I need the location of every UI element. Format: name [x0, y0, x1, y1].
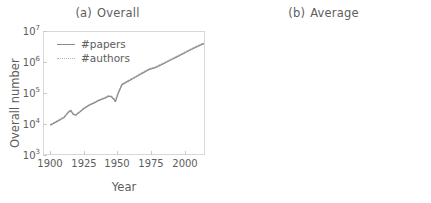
xtick-a-1975: 1975 [138, 158, 163, 169]
xtick-a-1900: 1900 [37, 158, 62, 169]
panel-a-title-text: Overall [97, 6, 140, 20]
figure-container: (a)Overall #papers #authors 103 104 10 [0, 0, 431, 203]
ytickmark-a-4 [43, 62, 47, 63]
legend-key-solid-icon [57, 40, 75, 49]
ytickmark-a-5 [43, 31, 47, 32]
ytick-a-1e7: 107 [6, 26, 40, 37]
xtickmark-a-3 [117, 151, 118, 155]
legend-item-authors: #authors [57, 51, 130, 65]
yaxis-label-overall: Overall number [8, 58, 22, 148]
panel-average: (b)Average #authors/paper #papers/author… [216, 0, 431, 203]
xaxis-label-overall: Year [43, 180, 205, 194]
xtickmark-a-5 [185, 151, 186, 155]
legend-key-dotted-icon [57, 54, 75, 63]
xtickmark-a-4 [151, 151, 152, 155]
legend-label-authors: #authors [81, 52, 130, 64]
xtick-a-2000: 2000 [172, 158, 197, 169]
ytickmark-a-3 [43, 93, 47, 94]
legend-item-papers: #papers [57, 37, 130, 51]
panel-b-title: (b)Average [216, 6, 431, 20]
ytickmark-a-1 [43, 155, 47, 156]
legend-label-papers: #papers [81, 38, 126, 50]
xtick-a-1925: 1925 [71, 158, 96, 169]
xtick-a-1950: 1950 [104, 158, 129, 169]
panel-b-tag: (b) [288, 6, 305, 20]
legend-overall: #papers #authors [57, 37, 130, 65]
panel-a-tag: (a) [75, 6, 92, 20]
xtickmark-a-2 [84, 151, 85, 155]
ytickmark-a-2 [43, 124, 47, 125]
panel-b-title-text: Average [310, 6, 359, 20]
panel-a-title: (a)Overall [0, 6, 215, 20]
panel-overall: (a)Overall #papers #authors 103 104 10 [0, 0, 215, 203]
xtickmark-a-1 [50, 151, 51, 155]
ytick-a-1e3: 103 [6, 150, 40, 161]
